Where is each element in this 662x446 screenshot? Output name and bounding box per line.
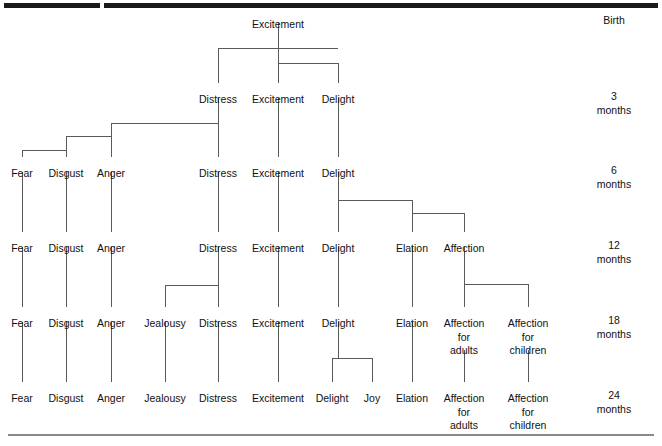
- emotion-node-m6-anger: Anger: [97, 167, 125, 181]
- emotion-node-label-line: Disgust: [48, 317, 83, 331]
- emotion-node-label-line: adults: [444, 344, 485, 358]
- emotion-node-label-line: Affection: [444, 392, 485, 406]
- age-3-months: 3months: [597, 90, 631, 117]
- emotion-node-label-line: Anger: [97, 242, 125, 256]
- emotion-node-label-line: Affection: [444, 242, 485, 256]
- emotion-node-m12-delight: Delight: [322, 242, 355, 256]
- emotion-node-m12-anger: Anger: [97, 242, 125, 256]
- emotion-node-label-line: Excitement: [252, 242, 304, 256]
- emotion-node-m24-elation: Elation: [396, 392, 428, 406]
- emotion-node-label-line: Joy: [364, 392, 380, 406]
- age-12-months: 12months: [597, 239, 631, 266]
- age-label-line: months: [597, 253, 631, 267]
- emotion-differentiation-figure: ExcitementDistressExcitementDelightFearD…: [0, 0, 662, 446]
- emotion-node-label-line: Distress: [199, 93, 237, 107]
- emotion-node-label-line: for: [444, 331, 485, 345]
- emotion-node-label-line: Excitement: [252, 167, 304, 181]
- emotion-node-m18-disgust: Disgust: [48, 317, 83, 331]
- emotion-node-m24-fear: Fear: [11, 392, 33, 406]
- emotion-node-label-line: Anger: [97, 392, 125, 406]
- age-6-months: 6months: [597, 164, 631, 191]
- age-24-months: 24months: [597, 389, 631, 416]
- emotion-node-m24-disgust: Disgust: [48, 392, 83, 406]
- emotion-node-label-line: adults: [444, 419, 485, 433]
- emotion-node-m3-delight: Delight: [322, 93, 355, 107]
- emotion-node-m18-affection-children: Affectionforchildren: [508, 317, 549, 358]
- age-label-line: 18: [597, 314, 631, 328]
- age-label-line: months: [597, 104, 631, 118]
- emotion-node-m24-distress: Distress: [199, 392, 237, 406]
- age-label-line: Birth: [603, 14, 625, 28]
- emotion-node-label-line: Anger: [97, 317, 125, 331]
- emotion-node-m24-excitement: Excitement: [252, 392, 304, 406]
- emotion-node-label-line: Distress: [199, 317, 237, 331]
- emotion-node-label-line: for: [508, 406, 549, 420]
- emotion-node-m6-fear: Fear: [11, 167, 33, 181]
- emotion-node-m24-delight: Delight: [316, 392, 349, 406]
- emotion-node-label-line: Distress: [199, 167, 237, 181]
- emotion-node-m18-anger: Anger: [97, 317, 125, 331]
- emotion-node-label-line: Distress: [199, 242, 237, 256]
- emotion-node-m24-affection-children: Affectionforchildren: [508, 392, 549, 433]
- emotion-node-label-line: Affection: [508, 392, 549, 406]
- emotion-node-m24-joy: Joy: [364, 392, 380, 406]
- emotion-node-m12-disgust: Disgust: [48, 242, 83, 256]
- age-label-line: months: [597, 178, 631, 192]
- emotion-node-m24-anger: Anger: [97, 392, 125, 406]
- emotion-node-label-line: Fear: [11, 242, 33, 256]
- age-birth: Birth: [603, 14, 625, 28]
- emotion-node-m6-disgust: Disgust: [48, 167, 83, 181]
- emotion-node-m12-excitement: Excitement: [252, 242, 304, 256]
- emotion-node-label-line: Disgust: [48, 167, 83, 181]
- emotion-node-label-line: children: [508, 419, 549, 433]
- emotion-node-label-line: Jealousy: [144, 317, 185, 331]
- emotion-node-label-line: Fear: [11, 392, 33, 406]
- emotion-node-m24-jealousy: Jealousy: [144, 392, 185, 406]
- emotion-node-label-line: Affection: [508, 317, 549, 331]
- age-label-line: 12: [597, 239, 631, 253]
- emotion-node-label-line: Distress: [199, 392, 237, 406]
- emotion-node-label-line: Delight: [322, 242, 355, 256]
- emotion-node-label-line: Anger: [97, 167, 125, 181]
- emotion-node-m6-delight: Delight: [322, 167, 355, 181]
- emotion-node-label-line: Elation: [396, 392, 428, 406]
- emotion-node-m12-distress: Distress: [199, 242, 237, 256]
- footer-rule: [8, 434, 654, 436]
- emotion-node-m12-elation: Elation: [396, 242, 428, 256]
- emotion-node-label-line: Elation: [396, 317, 428, 331]
- emotion-node-m18-excitement: Excitement: [252, 317, 304, 331]
- emotion-node-label-line: Delight: [322, 93, 355, 107]
- emotion-node-label-line: Delight: [322, 317, 355, 331]
- emotion-node-label-line: Fear: [11, 167, 33, 181]
- emotion-node-m6-distress: Distress: [199, 167, 237, 181]
- emotion-node-label-line: Delight: [322, 167, 355, 181]
- emotion-node-label-line: Disgust: [48, 392, 83, 406]
- connector-layer: [0, 0, 662, 446]
- age-label-line: 24: [597, 389, 631, 403]
- emotion-node-label-line: Excitement: [252, 392, 304, 406]
- emotion-node-label-line: children: [508, 344, 549, 358]
- age-18-months: 18months: [597, 314, 631, 341]
- emotion-node-m18-elation: Elation: [396, 317, 428, 331]
- age-label-line: 3: [597, 90, 631, 104]
- emotion-node-label-line: Delight: [316, 392, 349, 406]
- emotion-node-label-line: Affection: [444, 317, 485, 331]
- emotion-node-label-line: Elation: [396, 242, 428, 256]
- emotion-node-m18-jealousy: Jealousy: [144, 317, 185, 331]
- emotion-node-m12-fear: Fear: [11, 242, 33, 256]
- emotion-node-m18-distress: Distress: [199, 317, 237, 331]
- emotion-node-birth-excitement: Excitement: [252, 18, 304, 32]
- emotion-node-label-line: Excitement: [252, 18, 304, 32]
- emotion-node-label-line: Excitement: [252, 93, 304, 107]
- emotion-node-m24-affection-adults: Affectionforadults: [444, 392, 485, 433]
- emotion-node-m18-fear: Fear: [11, 317, 33, 331]
- emotion-node-m18-affection-adults: Affectionforadults: [444, 317, 485, 358]
- emotion-node-label-line: for: [444, 406, 485, 420]
- age-label-line: 6: [597, 164, 631, 178]
- emotion-node-m3-excitement: Excitement: [252, 93, 304, 107]
- emotion-node-m6-excitement: Excitement: [252, 167, 304, 181]
- emotion-node-label-line: for: [508, 331, 549, 345]
- emotion-node-m12-affection: Affection: [444, 242, 485, 256]
- age-label-line: months: [597, 328, 631, 342]
- emotion-node-label-line: Jealousy: [144, 392, 185, 406]
